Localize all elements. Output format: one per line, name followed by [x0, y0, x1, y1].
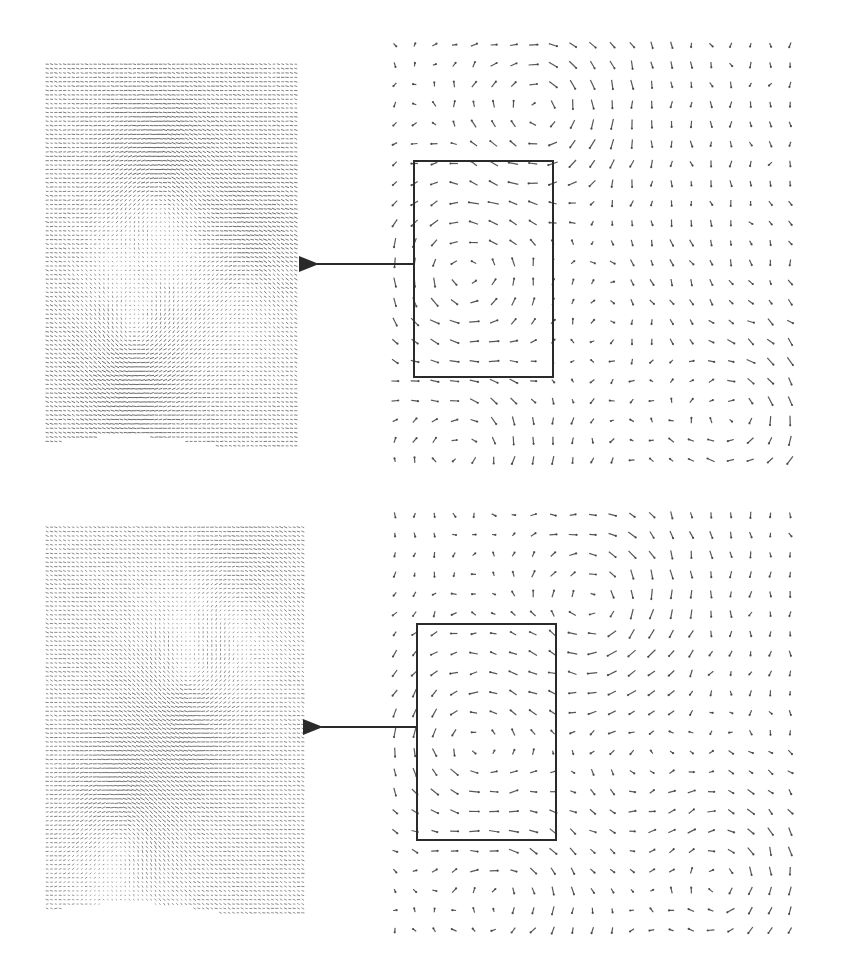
vector-arrow — [90, 235, 92, 236]
vector-arrow — [194, 212, 196, 214]
vector-arrow — [106, 151, 110, 152]
vector-arrow — [67, 715, 70, 716]
vector-arrow — [195, 296, 197, 298]
vector-arrowhead — [414, 62, 416, 64]
vector-arrowhead — [670, 617, 672, 619]
vector-arrow — [76, 419, 79, 420]
vector-arrow — [175, 811, 179, 814]
vector-arrow — [747, 360, 755, 364]
vector-arrow — [124, 632, 126, 633]
vector-arrow — [247, 380, 249, 381]
vector-arrow — [228, 812, 231, 813]
vector-arrow — [151, 204, 153, 205]
vector-arrow — [223, 820, 226, 821]
vector-arrow — [59, 549, 61, 550]
vector-arrowhead — [509, 239, 511, 241]
vector-arrow — [510, 379, 518, 383]
vector-arrow — [288, 772, 291, 773]
vector-arrow — [76, 588, 79, 589]
vector-arrow — [280, 763, 283, 764]
vector-arrow — [232, 715, 235, 716]
vector-arrow — [262, 553, 266, 555]
vector-arrow — [179, 789, 183, 791]
vector-arrow — [127, 772, 131, 773]
vector-arrow — [294, 252, 297, 253]
vector-arrow — [255, 278, 257, 280]
vector-arrow — [689, 630, 693, 636]
vector-arrow — [128, 706, 132, 708]
vector-arrow — [203, 428, 206, 429]
vector-arrow — [155, 348, 158, 350]
vector-arrow — [84, 803, 88, 805]
vector-arrow — [124, 575, 127, 576]
vector-arrow — [212, 318, 214, 319]
vector-arrow — [72, 279, 75, 280]
vector-arrow — [110, 759, 114, 760]
vector-arrow — [291, 322, 293, 324]
vector-arrow — [94, 173, 97, 174]
vector-arrow — [63, 283, 66, 284]
vector-arrow — [246, 130, 249, 131]
vector-arrow — [59, 336, 62, 337]
vector-arrowhead — [494, 593, 496, 595]
vector-arrow — [289, 741, 291, 742]
vector-arrow — [108, 270, 109, 271]
vector-arrow — [50, 891, 53, 892]
vector-arrow — [97, 724, 101, 725]
vector-arrow — [224, 169, 228, 170]
vector-arrow — [90, 322, 92, 324]
vector-arrow — [133, 601, 135, 603]
vector-arrow — [173, 619, 174, 620]
vector-arrowhead — [731, 712, 733, 714]
vector-arrow — [138, 296, 139, 298]
vector-arrow — [233, 658, 234, 660]
vector-arrow — [67, 579, 70, 580]
vector-arrow — [102, 388, 106, 390]
vector-arrowhead — [651, 107, 653, 109]
vector-arrow — [269, 318, 271, 320]
vector-arrow — [93, 379, 97, 381]
vector-arrow — [171, 723, 176, 725]
vector-arrow — [255, 274, 258, 275]
vector-arrow — [102, 684, 105, 685]
vector-arrow — [169, 300, 170, 302]
vector-arrow — [233, 614, 235, 615]
vector-arrow — [199, 348, 202, 350]
vector-arrow — [63, 173, 66, 174]
vector-arrowhead — [791, 384, 793, 386]
vector-arrow — [67, 309, 70, 310]
vector-arrow — [491, 299, 496, 305]
vector-arrow — [146, 606, 149, 607]
vector-arrow — [233, 77, 236, 78]
vector-arrow — [111, 397, 115, 398]
vector-arrow — [98, 623, 100, 624]
vector-arrow — [284, 851, 287, 852]
vector-arrow — [184, 763, 188, 765]
vector-arrow — [159, 553, 161, 554]
vector-arrow — [173, 322, 174, 325]
vector-arrow — [297, 548, 300, 550]
vector-arrow — [149, 785, 153, 787]
vector-arrow — [224, 913, 227, 914]
vector-arrow — [268, 143, 272, 144]
vector-arrow — [167, 746, 171, 748]
vector-arrow — [136, 772, 141, 774]
vector-arrow — [50, 593, 53, 594]
vector-arrow — [111, 579, 114, 580]
vector-arrowhead — [692, 165, 694, 167]
vector-arrow — [159, 353, 162, 355]
vector-arrow — [198, 235, 201, 236]
vector-arrow — [54, 367, 57, 368]
vector-arrowhead — [670, 398, 672, 400]
vector-arrow — [297, 803, 300, 804]
vector-arrow — [258, 561, 261, 563]
vector-arrowhead — [593, 774, 595, 776]
vector-arrowhead — [392, 614, 394, 616]
vector-arrow — [177, 208, 179, 211]
vector-arrow — [290, 419, 293, 420]
vector-arrowhead — [632, 284, 634, 286]
vector-arrow — [264, 248, 267, 250]
vector-arrow — [85, 628, 88, 629]
vector-arrow — [112, 300, 113, 302]
vector-arrow — [232, 606, 234, 607]
